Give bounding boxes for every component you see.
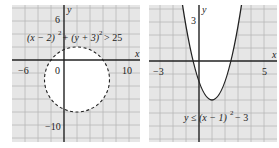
svg-text:> 25: > 25 xyxy=(104,32,122,43)
figure-canvas: y x 6 −6 0 10 −10 (x − 2) 2 + (y + 3) 2 … xyxy=(0,0,279,148)
right-tick-y-pos: 3 xyxy=(191,15,196,26)
svg-text:2: 2 xyxy=(230,109,234,117)
left-tick-y-pos: 6 xyxy=(55,14,60,25)
left-x-label: x xyxy=(134,48,140,59)
left-graph: y x 6 −6 0 10 −10 (x − 2) 2 + (y + 3) 2 … xyxy=(12,4,140,142)
left-inequality-label: (x − 2) 2 + (y + 3) 2 > 25 xyxy=(27,29,122,44)
svg-text:y ≤ (x − 1): y ≤ (x − 1) xyxy=(183,112,227,124)
right-graph: y x 3 −3 5 y ≤ (x − 1) 2 − 3 xyxy=(149,4,277,142)
right-tick-x-neg: −3 xyxy=(153,66,164,77)
svg-text:(x − 2): (x − 2) xyxy=(27,32,56,44)
left-tick-x-pos: 10 xyxy=(122,65,132,76)
left-tick-y-neg: −10 xyxy=(45,121,61,132)
svg-text:− 3: − 3 xyxy=(235,112,248,123)
right-x-label: x xyxy=(271,49,277,60)
right-inequality-label: y ≤ (x − 1) 2 − 3 xyxy=(183,109,248,124)
left-tick-origin: 0 xyxy=(55,65,60,76)
svg-text:2: 2 xyxy=(99,29,103,37)
right-tick-x-pos: 5 xyxy=(262,66,267,77)
left-tick-x-neg: −6 xyxy=(18,65,29,76)
left-y-label: y xyxy=(66,4,72,15)
right-y-label: y xyxy=(201,4,207,15)
svg-text:+ (y + 3): + (y + 3) xyxy=(62,32,100,44)
